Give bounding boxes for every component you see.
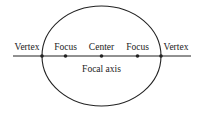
vertex-left-label: Vertex xyxy=(15,42,40,52)
focal-axis-label: Focal axis xyxy=(82,64,121,74)
focus-right-point xyxy=(136,54,140,58)
focus-left-point xyxy=(64,54,68,58)
center-point xyxy=(100,54,104,58)
center-label: Center xyxy=(89,42,115,52)
vertex-right-point xyxy=(159,54,163,58)
ellipse-diagram: Vertex Focus Center Focus Vertex Focal a… xyxy=(0,0,206,115)
focus-right-label: Focus xyxy=(126,42,149,52)
vertex-right-label: Vertex xyxy=(164,42,189,52)
focus-left-label: Focus xyxy=(54,42,77,52)
vertex-left-point xyxy=(40,54,44,58)
